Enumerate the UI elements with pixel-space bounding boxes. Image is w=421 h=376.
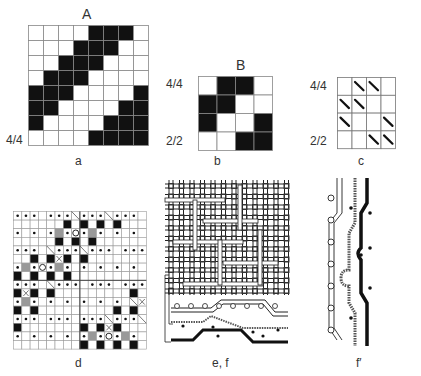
dotted-thread (171, 316, 288, 328)
interlacing-knot-center (254, 279, 257, 282)
dot-mark (83, 301, 86, 304)
empty-cell (138, 341, 146, 350)
white-cell (104, 71, 119, 86)
empty-cell (30, 220, 38, 229)
dot-mark (83, 215, 86, 218)
grid-cell (338, 78, 353, 96)
black-cell (134, 116, 149, 131)
dot-mark (33, 318, 36, 321)
dot-mark (66, 266, 69, 269)
black-cell (30, 289, 38, 298)
dot-mark (33, 335, 36, 338)
empty-cell (38, 289, 46, 298)
white-cell (134, 56, 149, 71)
interlacing-knot-center (222, 248, 225, 251)
empty-cell (130, 255, 138, 264)
empty-cell (97, 255, 105, 264)
interlacing-knot-center (285, 185, 288, 188)
interlacing-knot-center (233, 248, 236, 251)
weft-float (203, 219, 258, 223)
black-cell (89, 56, 104, 71)
black-cell (89, 131, 104, 146)
panel-a-ratio-label: 4/4 (6, 134, 23, 146)
interlacing-knot-center (180, 269, 183, 272)
interlacing-knot-center (233, 206, 236, 209)
white-cell (59, 131, 74, 146)
empty-cell (105, 341, 113, 350)
warp-section-circle (328, 261, 334, 267)
dot-mark (50, 232, 53, 235)
black-cell (254, 132, 273, 151)
empty-cell (72, 315, 80, 324)
empty-cell (63, 306, 71, 315)
interlacing-knot-center (285, 279, 288, 282)
warp-section-circle (189, 304, 194, 309)
empty-cell (138, 306, 146, 315)
empty-cell (138, 272, 146, 281)
interlacing-knot-center (170, 269, 173, 272)
interlacing-knot-center (212, 269, 215, 272)
panel-b-grid (198, 76, 274, 152)
empty-cell (97, 306, 105, 315)
black-cell (30, 255, 38, 264)
dot-mark (133, 266, 136, 269)
empty-cell (121, 255, 129, 264)
interlacing-knot-center (212, 237, 215, 240)
empty-cell (138, 212, 146, 221)
heavy-thread (171, 330, 288, 342)
white-cell (199, 77, 218, 96)
interlacing-knot-center (170, 206, 173, 209)
interlacing-knot-center (264, 258, 267, 261)
interlacing-knot-center (222, 269, 225, 272)
interlacing-knot-center (233, 227, 236, 230)
black-cell (14, 323, 22, 332)
connector-line (165, 275, 171, 342)
white-cell (104, 101, 119, 116)
interlacing-knot-center (191, 195, 194, 198)
interlacing-knot-center (180, 290, 183, 293)
warp-section-circle (328, 217, 334, 223)
dot-mark (133, 215, 136, 218)
black-cell (134, 86, 149, 101)
panel-a-title: A (82, 7, 91, 21)
interlacing-knot-center (254, 206, 257, 209)
interlacing-knot-center (275, 248, 278, 251)
empty-cell (38, 315, 46, 324)
interlacing-knot-center (170, 195, 173, 198)
dot-mark (16, 301, 19, 304)
interlacing-knot-center (254, 248, 257, 251)
empty-cell (88, 263, 96, 272)
interlacing-knot-center (275, 227, 278, 230)
white-cell (134, 71, 149, 86)
empty-cell (113, 237, 121, 246)
interlacing-knot-center (201, 269, 204, 272)
interlacing-knot-center (180, 279, 183, 282)
interlacing-knot-center (285, 227, 288, 230)
interlacing-knot-center (201, 237, 204, 240)
panel-b-ratio-bottom: 2/2 (166, 135, 183, 147)
black-cell (88, 237, 96, 246)
black-cell (29, 116, 44, 131)
interlacing-knot-center (264, 279, 267, 282)
dot-mark (368, 286, 372, 290)
empty-cell (105, 306, 113, 315)
interlacing-knot-center (233, 258, 236, 261)
interlacing-knot-center (201, 185, 204, 188)
gray-cell (88, 229, 96, 238)
interlacing-knot-center (243, 279, 246, 282)
dot-mark (50, 301, 53, 304)
empty-cell (113, 246, 121, 255)
dot-mark (83, 335, 86, 338)
dot-mark (99, 249, 102, 252)
white-cell (254, 77, 273, 96)
empty-cell (88, 341, 96, 350)
empty-cell (47, 323, 55, 332)
black-cell (74, 41, 89, 56)
warp-float (218, 240, 222, 285)
white-cell (119, 71, 134, 86)
black-cell (254, 114, 273, 133)
black-cell (80, 323, 88, 332)
dot-mark (50, 318, 53, 321)
interlacing-knot-center (264, 206, 267, 209)
panel-d-grid (13, 211, 147, 349)
